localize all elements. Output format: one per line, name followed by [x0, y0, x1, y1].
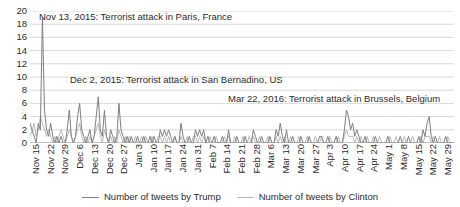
y-axis-tick-label: 4 [0, 112, 27, 122]
x-axis-tick-label: Apr 24 [369, 144, 379, 172]
y-axis-tick-label: 0 [0, 138, 27, 148]
x-axis-tick-label: May 22 [428, 144, 438, 175]
legend-entry-trump[interactable]: Number of tweets by Trump [82, 192, 221, 202]
chart-legend: Number of tweets by TrumpNumber of tweet… [0, 189, 460, 205]
x-axis-tick-label: Nov 15 [31, 144, 41, 174]
x-axis-tick-label: Mar 13 [281, 144, 291, 174]
x-axis-tick-label: Dec 27 [119, 144, 129, 174]
x-axis-tick-label: Dec 13 [90, 144, 100, 174]
x-axis-tick-label: Dec 6 [75, 144, 85, 169]
x-axis-tick-label: Jan 31 [193, 144, 203, 173]
legend-line-swatch [237, 197, 254, 198]
y-axis-tick-label: 16 [0, 33, 27, 43]
y-axis-tick-label: 10 [0, 72, 27, 82]
legend-label: Number of tweets by Clinton [259, 192, 378, 202]
x-axis-tick-label: May 15 [414, 144, 424, 175]
x-axis-tick-label: Feb 14 [222, 144, 232, 174]
x-axis: Nov 15Nov 22Nov 29Dec 6Dec 13Dec 20Dec 2… [30, 144, 454, 188]
x-axis-tick-label: May 8 [399, 144, 409, 170]
x-axis-tick-label: Jan 24 [178, 144, 188, 173]
y-axis-tick-label: 6 [0, 99, 27, 109]
legend-label: Number of tweets by Trump [104, 192, 221, 202]
x-axis-tick-label: Mar 20 [296, 144, 306, 174]
x-axis-tick-label: Feb 28 [252, 144, 262, 174]
tweet-volume-chart: 02468101214161820 Nov 13, 2015: Terroris… [0, 0, 460, 207]
legend-entry-clinton[interactable]: Number of tweets by Clinton [237, 192, 378, 202]
y-axis-tick-label: 2 [0, 125, 27, 135]
annotation-brussels: Mar 22, 2016: Terrorist attack in Brusse… [228, 94, 440, 104]
x-axis-tick-label: Mar 6 [266, 144, 276, 168]
x-axis-tick-label: Feb 7 [208, 144, 218, 168]
y-axis-tick-label: 14 [0, 46, 27, 56]
x-axis-tick-label: Dec 20 [105, 144, 115, 174]
y-axis-tick-label: 18 [0, 19, 27, 29]
x-axis-tick-label: Jan 3 [134, 144, 144, 167]
x-axis-tick-label: May 1 [384, 144, 394, 170]
x-axis-tick-label: Nov 22 [46, 144, 56, 174]
x-axis-tick-label: Apr 17 [355, 144, 365, 172]
x-axis-tick-label: Jan 10 [149, 144, 159, 173]
x-axis-tick-label: Mar 27 [311, 144, 321, 174]
x-axis-tick-label: Feb 21 [237, 144, 247, 174]
x-axis-tick-label: Apr 3 [325, 144, 335, 167]
x-axis-tick-label: May 29 [443, 144, 453, 175]
y-axis: 02468101214161820 [0, 11, 27, 143]
annotation-paris: Nov 13, 2015: Terrorist attack in Paris,… [39, 12, 232, 22]
y-axis-tick-label: 8 [0, 85, 27, 95]
x-axis-tick-label: Jan 17 [163, 144, 173, 173]
y-axis-tick-label: 12 [0, 59, 27, 69]
x-axis-tick-label: Nov 29 [60, 144, 70, 174]
y-axis-tick-label: 20 [0, 6, 27, 16]
legend-line-swatch [82, 197, 99, 198]
x-axis-tick-label: Apr 10 [340, 144, 350, 172]
annotation-san-bernadino: Dec 2, 2015: Terrorist attack in San Ber… [70, 75, 283, 85]
